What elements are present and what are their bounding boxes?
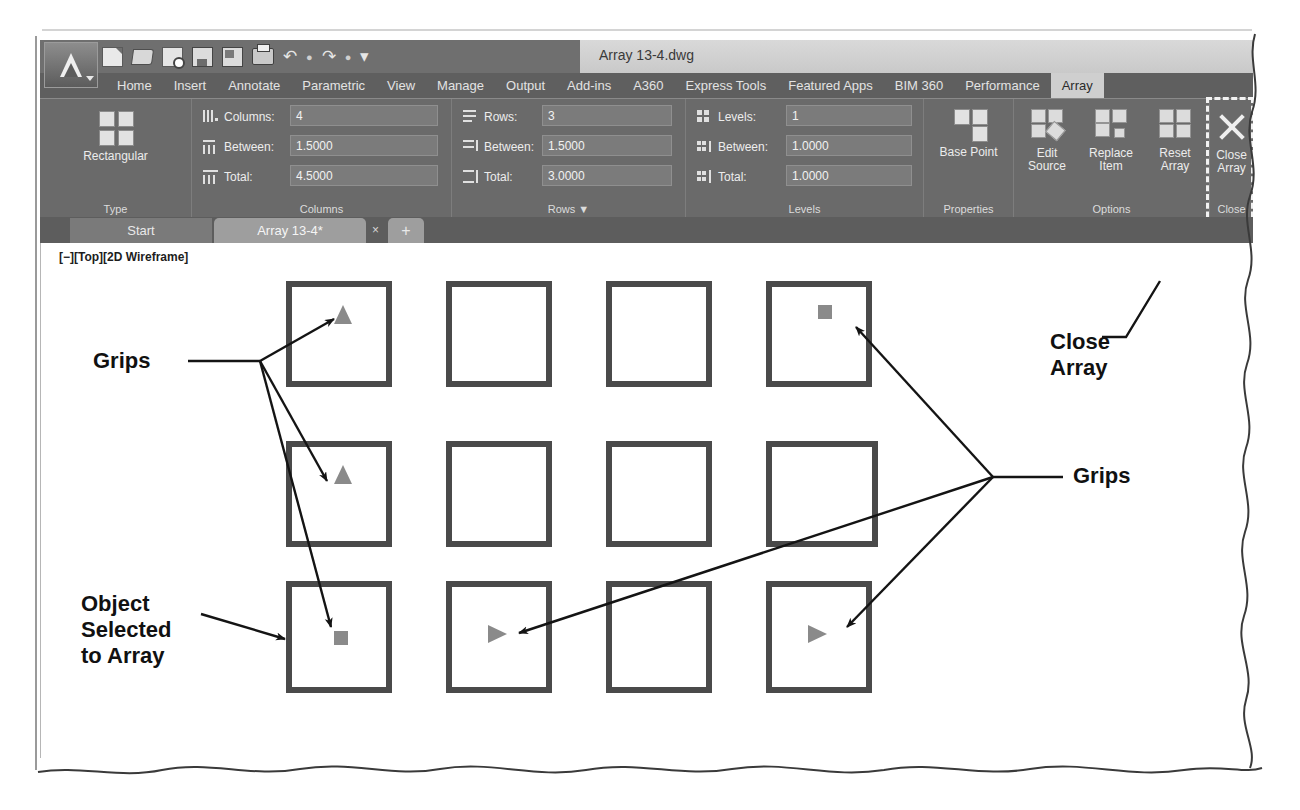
tab-parametric[interactable]: Parametric <box>291 73 376 98</box>
tab-featured-apps[interactable]: Featured Apps <box>777 73 884 98</box>
tab-insert[interactable]: Insert <box>163 73 218 98</box>
rectangular-array-label: Rectangular <box>83 149 148 163</box>
rectangular-array-icon <box>99 111 133 145</box>
edit-source-button[interactable]: Edit Source <box>1016 109 1078 173</box>
panel-options: Edit Source Replace Item Reset Arra <box>1014 99 1210 217</box>
window-title: Array 13-4.dwg <box>40 47 1253 63</box>
annotation-object-selected-line1: Object <box>81 591 172 617</box>
drawing-canvas[interactable]: [−][Top][2D Wireframe] <box>40 243 1253 758</box>
array-item-r1c3[interactable] <box>766 441 878 547</box>
array-item-r0c3[interactable] <box>766 281 872 387</box>
application-menu-button[interactable] <box>44 42 98 88</box>
base-point-button[interactable]: Base Point <box>924 109 1013 159</box>
reset-array-button[interactable]: Reset Array <box>1144 109 1206 173</box>
ribbon: Rectangular Type Columns: 4 <box>40 98 1253 217</box>
columns-count-label: Columns: <box>224 110 275 124</box>
replace-item-label: Replace Item <box>1089 146 1133 173</box>
array-item-r1c1[interactable] <box>446 441 552 547</box>
panel-levels: Levels: 1 Between: 1.0000 <box>686 99 924 217</box>
new-tab-button[interactable]: + <box>388 218 424 244</box>
grip-r0c0-triangle-up[interactable] <box>334 305 352 324</box>
grip-r2c3-triangle-right[interactable] <box>808 625 827 643</box>
rectangular-array-button[interactable]: Rectangular <box>40 111 191 163</box>
scanned-page: ↶ ● ↷ ● ▾ Array 13-4.dwg Home Insert Ann… <box>0 0 1300 810</box>
panel-label-columns: Columns <box>192 203 451 215</box>
columns-count-input[interactable]: 4 <box>290 105 438 126</box>
rows-count-input[interactable]: 3 <box>542 105 672 126</box>
grip-r2c0-square[interactable] <box>334 631 348 645</box>
columns-between-icon <box>202 139 219 155</box>
tab-view[interactable]: View <box>376 73 426 98</box>
ribbon-tabs: Home Insert Annotate Parametric View Man… <box>106 73 1104 98</box>
autocad-logo-icon <box>60 53 82 77</box>
annotation-object-selected: Object Selected to Array <box>81 591 172 669</box>
tab-output[interactable]: Output <box>495 73 556 98</box>
rows-between-input[interactable]: 1.5000 <box>542 135 672 156</box>
columns-count-row: Columns: <box>202 105 275 129</box>
array-item-r0c1[interactable] <box>446 281 552 387</box>
tab-add-ins[interactable]: Add-ins <box>556 73 622 98</box>
rows-count-label: Rows: <box>484 110 517 124</box>
grip-r0c3-square[interactable] <box>818 305 832 319</box>
levels-between-input[interactable]: 1.0000 <box>786 135 912 156</box>
doc-tab-start[interactable]: Start <box>70 218 212 244</box>
columns-between-input[interactable]: 1.5000 <box>290 135 438 156</box>
reset-array-icon <box>1157 109 1193 141</box>
levels-count-label: Levels: <box>718 110 756 124</box>
columns-total-input[interactable]: 4.5000 <box>290 165 438 186</box>
edit-source-label: Edit Source <box>1028 146 1066 173</box>
doc-tab-close-icon[interactable]: × <box>372 223 379 237</box>
tab-a360[interactable]: A360 <box>622 73 674 98</box>
levels-total-label: Total: <box>718 170 747 184</box>
chevron-down-icon <box>86 76 94 81</box>
grip-r2c1-triangle-right[interactable] <box>488 625 507 643</box>
array-item-r2c2[interactable] <box>606 581 712 693</box>
close-array-leader-line <box>1100 255 1180 345</box>
base-point-label: Base Point <box>939 145 997 159</box>
replace-item-button[interactable]: Replace Item <box>1080 109 1142 173</box>
array-item-r1c2[interactable] <box>606 441 712 547</box>
panel-label-levels: Levels <box>686 203 923 215</box>
rows-between-row: Between: <box>462 135 534 159</box>
array-item-r1c0[interactable] <box>286 441 392 547</box>
base-point-icon <box>952 109 986 141</box>
rows-between-label: Between: <box>484 140 534 154</box>
tab-annotate[interactable]: Annotate <box>217 73 291 98</box>
columns-between-label: Between: <box>224 140 274 154</box>
columns-total-label: Total: <box>224 170 253 184</box>
annotation-object-selected-line3: to Array <box>81 643 172 669</box>
rows-between-icon <box>462 139 479 155</box>
rows-total-icon <box>462 169 479 185</box>
panel-label-properties: Properties <box>924 203 1013 215</box>
panel-label-rows-text: Rows <box>548 203 576 215</box>
levels-count-row: Levels: <box>696 105 756 129</box>
annotation-grips-left: Grips <box>93 348 150 374</box>
tab-performance[interactable]: Performance <box>954 73 1050 98</box>
rows-total-input[interactable]: 3.0000 <box>542 165 672 186</box>
panel-label-rows[interactable]: Rows ▼ <box>452 203 685 215</box>
rows-total-label: Total: <box>484 170 513 184</box>
array-item-r0c0[interactable] <box>286 281 392 387</box>
rows-total-row: Total: <box>462 165 513 189</box>
title-bar: ↶ ● ↷ ● ▾ Array 13-4.dwg <box>40 40 1253 73</box>
columns-total-row: Total: <box>202 165 253 189</box>
tab-home[interactable]: Home <box>106 73 163 98</box>
viewport-label[interactable]: [−][Top][2D Wireframe] <box>59 250 188 264</box>
levels-between-label: Between: <box>718 140 768 154</box>
doc-tab-array-13-4[interactable]: Array 13-4* <box>214 218 366 244</box>
rows-count-icon <box>462 109 479 125</box>
panel-columns: Columns: 4 Between: 1.5000 <box>192 99 452 217</box>
tab-express-tools[interactable]: Express Tools <box>675 73 778 98</box>
rows-expander-icon[interactable]: ▼ <box>578 203 589 215</box>
levels-between-row: Between: <box>696 135 768 159</box>
tab-bim-360[interactable]: BIM 360 <box>884 73 954 98</box>
levels-count-input[interactable]: 1 <box>786 105 912 126</box>
tab-array[interactable]: Array <box>1051 73 1104 98</box>
reset-array-label: Reset Array <box>1159 146 1190 173</box>
tab-manage[interactable]: Manage <box>426 73 495 98</box>
array-item-r0c2[interactable] <box>606 281 712 387</box>
levels-total-input[interactable]: 1.0000 <box>786 165 912 186</box>
grip-r1c0-triangle-up[interactable] <box>334 465 352 484</box>
levels-between-icon <box>696 139 713 155</box>
panel-type: Rectangular Type <box>40 99 192 217</box>
